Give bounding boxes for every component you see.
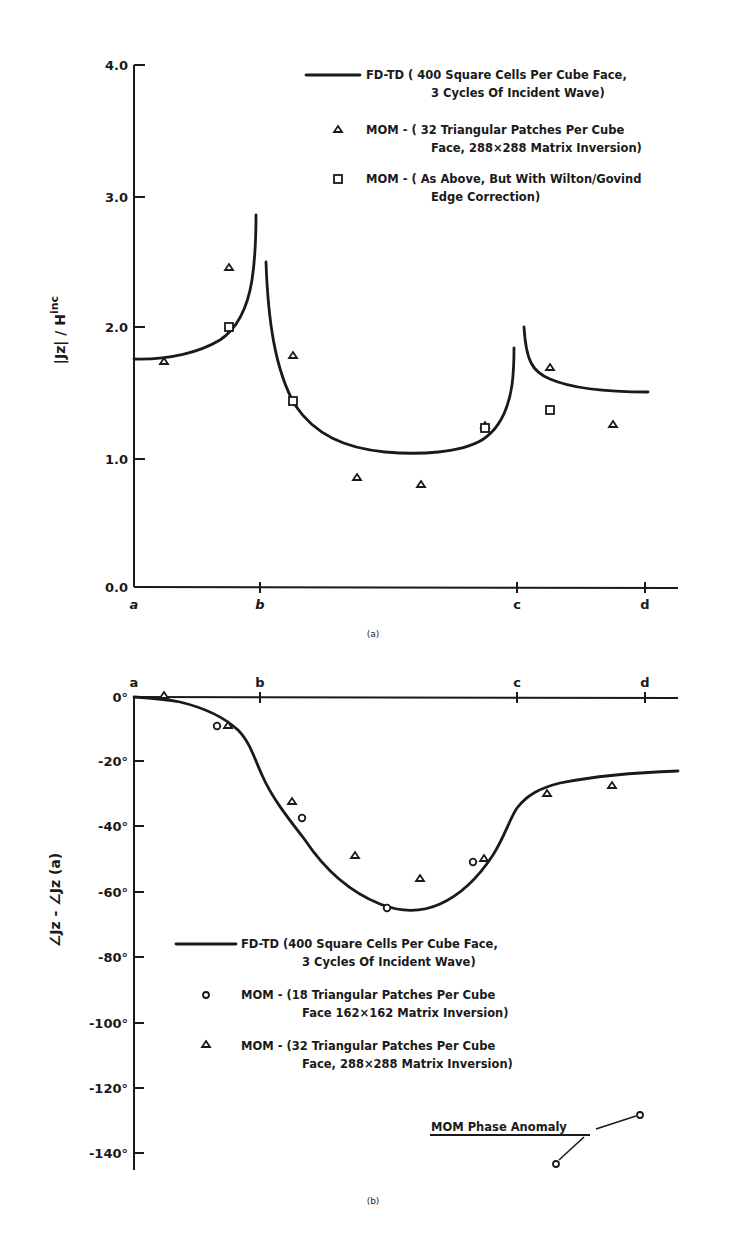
caption-a: (a)	[367, 629, 380, 639]
legend-a: FD-TD ( 400 Square Cells Per Cube Face, …	[306, 68, 642, 204]
ytick-a-0: 0.0	[105, 580, 128, 595]
chart-b: a b c d 0° -20° -40° -60° -80° -100° -12…	[47, 675, 678, 1206]
svg-text:Face, 288×288 Matrix Inversion: Face, 288×288 Matrix Inversion)	[431, 141, 642, 155]
legend-triangle-icon	[202, 1041, 210, 1047]
svg-text:3 Cycles Of Incident Wave): 3 Cycles Of Incident Wave)	[431, 86, 605, 100]
xtick-b-d: d	[640, 675, 649, 690]
xtick-a-a: a	[130, 597, 139, 612]
xtick-b-a: a	[130, 675, 139, 690]
ylabel-a: |Jz| / Hinc	[48, 296, 69, 364]
ytick-b-120: -120°	[89, 1081, 128, 1096]
anomaly-point-2	[553, 1161, 559, 1167]
ytick-a-3: 3.0	[105, 190, 128, 205]
phase-anomaly-annotation: MOM Phase Anomaly	[430, 1112, 643, 1167]
ytick-a-2: 2.0	[105, 320, 128, 335]
xtick-b-b: b	[255, 675, 264, 690]
ytick-a-1: 1.0	[105, 452, 128, 467]
svg-text:Face, 288×288 Matrix Inversion: Face, 288×288 Matrix Inversion)	[302, 1057, 513, 1071]
svg-text:|Jz| / Hinc: |Jz| / Hinc	[48, 296, 69, 364]
fdtd-curve-a-seg3	[524, 327, 648, 392]
svg-text:MOM - (18 Triangular Patches P: MOM - (18 Triangular Patches Per Cube	[241, 988, 495, 1002]
figure: 4.0 3.0 2.0 1.0 0.0 a b c d |Jz| / Hinc	[0, 0, 746, 1243]
ytick-b-40: -40°	[98, 819, 128, 834]
chart-a: 4.0 3.0 2.0 1.0 0.0 a b c d |Jz| / Hinc	[48, 58, 678, 639]
ytick-b-0: 0°	[112, 690, 128, 705]
svg-text:MOM - ( 32 Triangular Patches: MOM - ( 32 Triangular Patches Per Cube	[366, 123, 624, 137]
ytick-b-100: -100°	[89, 1016, 128, 1031]
legend-circle-icon	[203, 992, 209, 998]
ytick-a-4: 4.0	[105, 58, 128, 73]
ylabel-b: ∠Jz - ∠Jz (a)	[47, 853, 63, 948]
xtick-a-c: c	[513, 597, 521, 612]
legend-triangle-icon	[334, 126, 342, 132]
fdtd-curve-a-seg1	[134, 215, 256, 359]
svg-text:MOM - (32 Triangular Patches P: MOM - (32 Triangular Patches Per Cube	[241, 1039, 495, 1053]
xtick-b-c: c	[513, 675, 521, 690]
legend-b: FD-TD (400 Square Cells Per Cube Face, 3…	[176, 937, 513, 1071]
anomaly-point-1	[637, 1112, 643, 1118]
ytick-b-140: -140°	[89, 1146, 128, 1161]
ytick-b-60: -60°	[98, 885, 128, 900]
svg-text:MOM Phase Anomaly: MOM Phase Anomaly	[431, 1120, 567, 1134]
svg-text:Face 162×162 Matrix Inversion): Face 162×162 Matrix Inversion)	[302, 1006, 509, 1020]
ytick-b-20: -20°	[98, 754, 128, 769]
svg-text:MOM - ( As Above, But With Wil: MOM - ( As Above, But With Wilton/Govind	[366, 172, 641, 186]
svg-text:FD-TD ( 400 Square Cells Per C: FD-TD ( 400 Square Cells Per Cube Face,	[366, 68, 627, 82]
ytick-b-80: -80°	[98, 950, 128, 965]
svg-text:∠Jz - ∠Jz (a): ∠Jz - ∠Jz (a)	[47, 853, 63, 948]
svg-text:FD-TD (400 Square Cells Per Cu: FD-TD (400 Square Cells Per Cube Face,	[241, 937, 498, 951]
svg-text:Edge Correction): Edge Correction)	[431, 190, 540, 204]
xtick-a-d: d	[640, 597, 649, 612]
x-axis-a	[134, 587, 678, 588]
legend-square-icon	[334, 175, 342, 183]
caption-b: (b)	[367, 1196, 380, 1206]
xtick-a-b: b	[255, 597, 264, 612]
fdtd-curve-a-seg2	[266, 262, 514, 453]
svg-text:3 Cycles Of Incident Wave): 3 Cycles Of Incident Wave)	[302, 955, 476, 969]
x-axis-b	[134, 697, 678, 698]
